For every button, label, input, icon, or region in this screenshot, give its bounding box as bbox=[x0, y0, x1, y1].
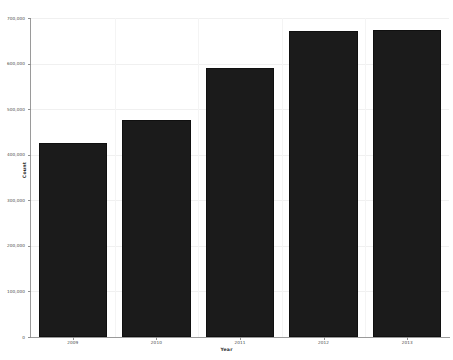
plot-area bbox=[31, 18, 449, 337]
x-tick-label: 2010 bbox=[136, 340, 176, 345]
y-tick-label: 600,000 bbox=[0, 61, 25, 66]
y-tick-label: 100,000 bbox=[0, 289, 25, 294]
y-tick-label: 0 bbox=[0, 335, 25, 340]
x-tick-mark bbox=[407, 337, 408, 340]
bar-chart-figure: 0100,000200,000300,000400,000500,000600,… bbox=[0, 0, 453, 360]
x-tick-mark bbox=[156, 337, 157, 340]
y-tick-label: 300,000 bbox=[0, 198, 25, 203]
y-tick-mark bbox=[28, 109, 31, 110]
x-axis-title: Year bbox=[0, 347, 453, 352]
y-tick-label: 500,000 bbox=[0, 107, 25, 112]
x-tick-label: 2012 bbox=[304, 340, 344, 345]
x-tick-label: 2011 bbox=[220, 340, 260, 345]
axis-spines bbox=[31, 18, 449, 337]
y-tick-mark bbox=[28, 246, 31, 247]
y-tick-mark bbox=[28, 18, 31, 19]
y-tick-mark bbox=[28, 200, 31, 201]
x-tick-mark bbox=[240, 337, 241, 340]
y-tick-label: 700,000 bbox=[0, 16, 25, 21]
x-tick-label: 2009 bbox=[53, 340, 93, 345]
x-tick-label: 2013 bbox=[387, 340, 427, 345]
y-axis-title: Count bbox=[19, 152, 31, 188]
y-tick-mark bbox=[28, 337, 31, 338]
x-tick-mark bbox=[73, 337, 74, 340]
y-tick-mark bbox=[28, 64, 31, 65]
y-tick-label: 200,000 bbox=[0, 243, 25, 248]
x-tick-mark bbox=[324, 337, 325, 340]
y-tick-mark bbox=[28, 291, 31, 292]
